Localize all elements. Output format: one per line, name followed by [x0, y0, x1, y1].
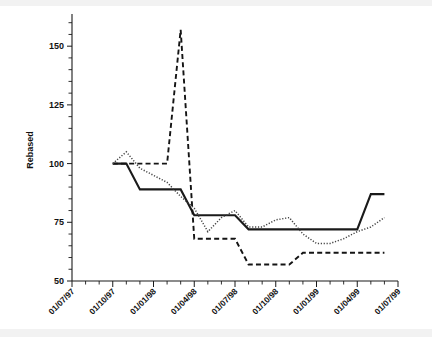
figure-bottom-margin [0, 329, 432, 337]
x-tick-label: 01/01/99 [291, 286, 321, 316]
figure-top-margin [0, 0, 432, 6]
y-tick-label: 150 [49, 41, 64, 51]
y-tick-label: 125 [49, 100, 64, 110]
y-tick-label: 50 [54, 276, 64, 286]
y-axis-title: Rebased [25, 131, 35, 169]
x-tick-label: 01/07/98 [209, 286, 239, 316]
x-axis: 01/07/9701/10/9701/01/9801/04/9801/07/98… [46, 281, 402, 316]
y-tick-label: 75 [54, 217, 64, 227]
line-chart-svg: 5075100125150 01/07/9701/10/9701/01/9801… [0, 0, 432, 337]
series-layer [113, 30, 385, 265]
x-tick-label: 01/10/97 [87, 286, 117, 316]
x-tick-label: 01/04/99 [332, 286, 362, 316]
chart-figure: 5075100125150 01/07/9701/10/9701/01/9801… [0, 0, 432, 337]
x-tick-label: 01/10/98 [250, 286, 280, 316]
x-tick-label: 01/07/97 [46, 286, 76, 316]
y-axis: 5075100125150 [49, 14, 72, 286]
series-line-solid [113, 164, 385, 230]
x-tick-label: 01/07/99 [372, 286, 402, 316]
x-tick-label: 01/04/98 [169, 286, 199, 316]
y-tick-label: 100 [49, 159, 64, 169]
x-tick-label: 01/01/98 [128, 286, 158, 316]
